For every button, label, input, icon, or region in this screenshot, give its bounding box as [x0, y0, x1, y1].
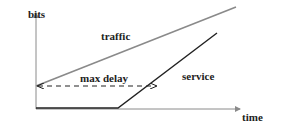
- traffic-label: traffic: [101, 31, 130, 42]
- y-axis-label: bits: [28, 9, 45, 20]
- x-axis-label: time: [242, 112, 263, 123]
- max-delay-label: max delay: [80, 73, 128, 84]
- service-label: service: [182, 71, 214, 82]
